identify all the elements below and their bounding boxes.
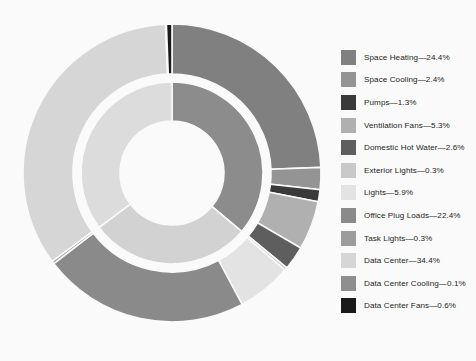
legend-item-label: Office Plug Loads—22.4% [364,211,461,220]
legend-swatch-icon [341,140,356,155]
legend-item[interactable]: Data Center Cooling—0.1% [341,272,473,295]
legend-item-label: Task Lights—0.3% [364,234,432,243]
legend-swatch-icon [341,185,356,200]
legend-item-label: Exterior Lights—0.3% [364,166,444,175]
donut-inner-slice[interactable] [99,204,242,264]
legend-item[interactable]: Office Plug Loads—22.4% [341,204,473,227]
legend-item-label: Space Cooling—2.4% [364,75,445,84]
legend-swatch-icon [341,298,356,313]
legend-swatch-icon [341,208,356,223]
legend-swatch-icon [341,231,356,246]
chart-legend: Space Heating—24.4%Space Cooling—2.4%Pum… [341,46,473,317]
legend-swatch-icon [341,72,356,87]
legend-item[interactable]: Space Heating—24.4% [341,46,473,69]
legend-swatch-icon [341,253,356,268]
legend-item[interactable]: Data Center—34.4% [341,249,473,272]
legend-item[interactable]: Pumps—1.3% [341,91,473,114]
legend-item[interactable]: Ventilation Fans—5.3% [341,114,473,137]
legend-item-label: Lights—5.9% [364,188,413,197]
legend-item[interactable]: Lights—5.9% [341,182,473,205]
legend-item-label: Ventilation Fans—5.3% [364,121,450,130]
legend-swatch-icon [341,276,356,291]
legend-item-label: Pumps—1.3% [364,98,417,107]
legend-item-label: Domestic Hot Water—2.6% [364,143,465,152]
legend-item-label: Space Heating—24.4% [364,53,450,62]
donut-chart-svg [0,0,330,361]
legend-item-label: Data Center—34.4% [364,256,440,265]
legend-swatch-icon [341,95,356,110]
legend-item[interactable]: Data Center Fans—0.6% [341,295,473,318]
legend-item[interactable]: Domestic Hot Water—2.6% [341,136,473,159]
legend-item-label: Data Center Fans—0.6% [364,301,456,310]
donut-outer-slice[interactable] [166,24,172,74]
chart-page: Space Heating—24.4%Space Cooling—2.4%Pum… [0,0,476,361]
legend-item[interactable]: Space Cooling—2.4% [341,69,473,92]
donut-chart [0,0,330,361]
legend-item[interactable]: Exterior Lights—0.3% [341,159,473,182]
legend-item[interactable]: Task Lights—0.3% [341,227,473,250]
legend-swatch-icon [341,118,356,133]
legend-swatch-icon [341,50,356,65]
legend-item-label: Data Center Cooling—0.1% [364,279,466,288]
legend-swatch-icon [341,163,356,178]
